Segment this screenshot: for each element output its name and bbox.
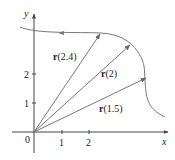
vector-r-2.4 [34, 34, 100, 132]
x-tick-label-1: 1 [59, 137, 64, 148]
origin-label: 0 [25, 134, 30, 145]
vector-label-r-1.5: r(1.5) [99, 103, 123, 115]
curve-direction-arrow-icon [58, 31, 64, 35]
vector-label-r-2: r(2) [101, 68, 117, 80]
y-tick-label-1: 1 [24, 98, 29, 109]
vector-label-r-2.4: r(2.4) [53, 51, 77, 63]
vector-function-diagram: y x 0 1 2 1 2 r(2.4) r(2) r(1.5) [0, 0, 175, 160]
vector-r-1.5 [34, 78, 146, 132]
x-axis-label: x [161, 136, 167, 147]
vector-label-arg: (2.4) [57, 51, 76, 63]
vector-label-arg: (2) [105, 68, 117, 80]
y-axis-label: y [23, 8, 29, 19]
y-tick-label-2: 2 [24, 69, 29, 80]
vector-label-arg: (1.5) [103, 103, 122, 115]
vector-r-2 [34, 45, 130, 132]
x-tick-label-2: 2 [86, 137, 91, 148]
